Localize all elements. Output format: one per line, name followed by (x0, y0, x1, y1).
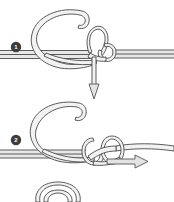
knot-diagram-illustration: 1 (0, 0, 174, 202)
knot-diagram-canvas: 1 (0, 0, 174, 202)
step-1-badge: 1 (11, 42, 21, 52)
working-end-tail (92, 57, 96, 86)
standing-line-right (112, 50, 174, 58)
step-2-badge: 2 (11, 135, 21, 145)
diagram-background (0, 0, 174, 202)
